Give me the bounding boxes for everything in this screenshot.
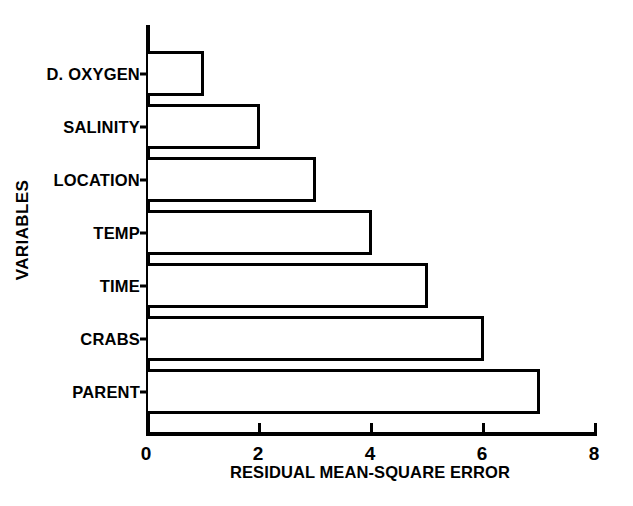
x-axis-tick-label: 2 xyxy=(238,443,278,465)
bar xyxy=(148,51,204,96)
y-axis-tick-label: PARENT xyxy=(72,382,140,401)
bar xyxy=(148,263,428,308)
x-axis-tick-label: 0 xyxy=(126,443,166,465)
y-axis-tick-label: CRABS xyxy=(80,329,140,348)
y-axis-tick-label: D. OXYGEN xyxy=(47,64,141,83)
y-axis-tick-label: SALINITY xyxy=(63,117,140,136)
x-axis-tick-label: 8 xyxy=(574,443,614,465)
x-axis-title: RESIDUAL MEAN-SQUARE ERROR xyxy=(146,463,594,482)
bar-chart-figure: VARIABLES D. OXYGENSALINITYLOCATIONTEMPT… xyxy=(0,0,633,506)
x-axis-tick-mark xyxy=(370,423,373,436)
x-axis-tick-mark xyxy=(258,423,261,436)
bar xyxy=(148,369,540,414)
x-axis-tick-mark xyxy=(482,423,485,436)
bar xyxy=(148,157,316,202)
y-axis-title-text: VARIABLES xyxy=(13,180,33,281)
x-axis-tick-label: 6 xyxy=(462,443,502,465)
x-axis-tick-mark xyxy=(594,423,597,436)
bar xyxy=(148,210,372,255)
y-axis-tick-label: LOCATION xyxy=(53,170,140,189)
bar xyxy=(148,104,260,149)
x-axis-tick-label: 4 xyxy=(350,443,390,465)
y-axis-tick-label: TIME xyxy=(100,276,140,295)
bar xyxy=(148,316,484,361)
y-axis-category-labels: D. OXYGENSALINITYLOCATIONTEMPTIMECRABSPA… xyxy=(34,51,146,436)
y-axis-tick-label: TEMP xyxy=(93,223,140,242)
plot-area: 02468 xyxy=(146,25,594,436)
x-axis-tick-mark xyxy=(146,423,149,436)
